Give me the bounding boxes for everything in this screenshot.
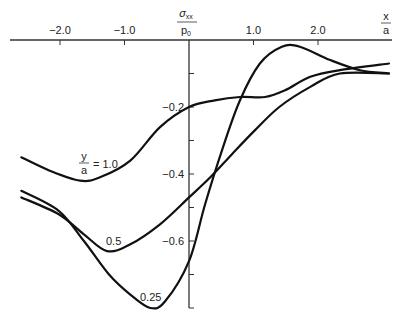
curve-label-0-5: 0.5 [106,235,121,247]
curve-y-a-1-0 [21,64,389,182]
curve-y-a-0-25 [21,45,389,309]
axes [10,40,392,308]
x-axis-label-denominator: a [383,24,390,36]
y-axis-label-denominator: p0 [181,24,191,37]
curve-label-1-0-numerator: y [81,150,87,162]
y-axis-label-numerator: σxx [179,7,193,20]
x-tick-label: −1.0 [114,24,136,36]
curve-y-a-0-5 [21,73,389,252]
x-tick-label: 1.0 [246,24,261,36]
curves [21,45,389,309]
y-tick-label: −0.6 [162,235,184,247]
curve-label-1-0-denominator: a [81,164,88,176]
y-tick-label: −0.4 [162,168,184,180]
curve-label-0-25: 0.25 [140,291,161,303]
x-tick-label: −2.0 [49,24,71,36]
x-tick-label: 2.0 [310,24,325,36]
curve-label-1-0-value: = 1.0 [93,158,118,170]
stress-distribution-chart: −2.0−1.01.02.0−0.2−0.4−0.6 σxxp0xaya= 1.… [0,0,394,320]
x-axis-label-numerator: x [383,10,389,22]
labels: σxxp0xaya= 1.00.50.25 [79,7,391,303]
